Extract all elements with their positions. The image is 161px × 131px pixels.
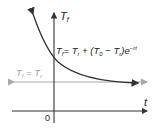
asymptote-label: Tf = Tr xyxy=(16,67,43,79)
x-axis-label: t xyxy=(144,96,148,108)
exponential-decay-diagram: Tf Tf= Tr + (T0 − Tr)e−rt Tf = Tr t 0 xyxy=(0,0,161,131)
origin-label: 0 xyxy=(45,113,50,123)
equation-label: Tf= Tr + (T0 − Tr)e−rt xyxy=(56,45,137,57)
y-axis-label: Tf xyxy=(60,10,70,23)
